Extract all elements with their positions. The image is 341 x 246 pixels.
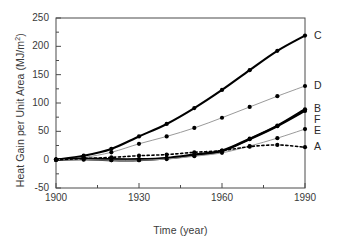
data-point-E	[192, 154, 196, 158]
data-point-A	[248, 145, 252, 149]
data-point-D	[275, 94, 279, 98]
y-tick-label: 100	[19, 97, 49, 108]
series-label-D: D	[314, 79, 322, 91]
data-point-F	[275, 124, 279, 128]
data-point-C	[192, 106, 196, 110]
y-tick-label: 200	[19, 40, 49, 51]
data-point-D	[192, 126, 196, 130]
y-tick-label: 150	[19, 69, 49, 80]
data-point-E	[275, 136, 279, 140]
series-label-C: C	[314, 29, 322, 41]
x-axis-title: Time (year)	[56, 224, 305, 236]
x-tick-label: 1960	[202, 192, 242, 203]
y-tick-label: 50	[19, 125, 49, 136]
data-point-E	[165, 157, 169, 161]
data-point-A	[137, 154, 141, 158]
data-point-A	[220, 149, 224, 153]
series-label-E: E	[314, 124, 321, 136]
data-point-C	[165, 122, 169, 126]
data-point-D	[137, 142, 141, 146]
data-point-C	[275, 49, 279, 53]
series-label-A: A	[314, 140, 321, 152]
x-tick-label: 1900	[36, 192, 76, 203]
data-point-D	[303, 84, 307, 88]
data-point-C	[137, 134, 141, 138]
y-axis-title-suffix: )	[14, 33, 26, 37]
data-point-C	[220, 88, 224, 92]
data-point-A	[109, 155, 113, 159]
data-point-E	[303, 127, 307, 131]
x-tick-label: 1930	[119, 192, 159, 203]
data-point-A	[275, 143, 279, 147]
data-point-C	[248, 68, 252, 72]
y-tick-label: 0	[19, 154, 49, 165]
data-point-D	[248, 105, 252, 109]
data-point-E	[137, 158, 141, 162]
y-tick-label: 250	[19, 12, 49, 23]
data-point-D	[220, 116, 224, 120]
data-point-D	[109, 150, 113, 154]
data-point-A	[165, 152, 169, 156]
x-tick-label: 1990	[285, 192, 325, 203]
data-point-F	[303, 109, 307, 113]
data-point-F	[248, 137, 252, 141]
data-point-A	[82, 156, 86, 160]
data-point-A	[54, 158, 58, 162]
data-point-A	[303, 145, 307, 149]
heat-gain-line-chart	[0, 0, 341, 246]
data-point-D	[165, 134, 169, 138]
data-point-C	[303, 33, 307, 37]
data-point-A	[192, 150, 196, 154]
y-axis-title-prefix: Heat Gain per Unit Area (MJ/m	[14, 41, 26, 187]
